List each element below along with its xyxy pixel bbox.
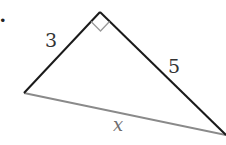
- leg-right-label: 5: [168, 55, 180, 77]
- hypotenuse-label: x: [113, 114, 123, 135]
- leg-left-side: [24, 12, 100, 93]
- problem-marker: .: [0, 2, 6, 27]
- leg-left-label: 3: [45, 29, 57, 51]
- hypotenuse-side: [24, 93, 226, 135]
- triangle-figure: . 3 5 x: [0, 0, 226, 145]
- right-angle-marker: [91, 22, 110, 32]
